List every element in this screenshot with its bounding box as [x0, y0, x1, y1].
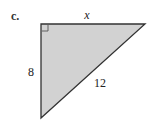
side-label-left: 8 [28, 65, 34, 79]
triangle-shape [41, 24, 145, 118]
part-label: c. [11, 9, 19, 23]
side-label-hypotenuse: 12 [94, 76, 106, 90]
side-label-top: x [83, 8, 90, 22]
right-triangle-diagram: c. x 8 12 [0, 0, 153, 131]
